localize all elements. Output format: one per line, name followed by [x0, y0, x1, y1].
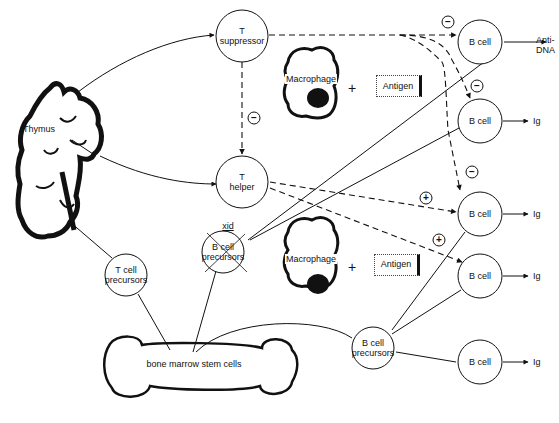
b-cell-5-output: Ig	[533, 357, 541, 367]
anti-dna-line2: DNA	[536, 45, 555, 55]
b-cell-3-label: B cell	[469, 209, 491, 219]
minus-sign-b-cell-2: −	[471, 80, 484, 93]
thymus-label: Thymus	[23, 124, 55, 134]
b-cell-4-output: Ig	[533, 271, 541, 281]
minus-sign-suppressor-helper: −	[248, 112, 261, 125]
b-cell-2-output: Ig	[533, 116, 541, 126]
dashed-connections	[242, 35, 470, 262]
t-cell-precursors-line2: precursors	[105, 275, 148, 285]
t-cell-precursors-line1: T cell	[105, 265, 148, 275]
macrophage-2-label: Macrophage	[285, 254, 337, 264]
b-cell-1-label: B cell	[469, 37, 491, 47]
b-cell-5-label: B cell	[469, 357, 491, 367]
b-cell-4-label: B cell	[469, 271, 491, 281]
xid-tag: xid	[222, 221, 234, 231]
macrophage-1-label: Macrophage	[285, 74, 337, 84]
xid-b-cell-precursors-node: B cell precursors	[202, 242, 245, 262]
antigen-1-label: Antigen	[383, 81, 414, 91]
b-cell-1-output: Anti- DNA	[536, 35, 555, 55]
t-suppressor-line1: T	[220, 26, 265, 36]
b-cell-precursors-node: B cell precursors	[352, 338, 395, 358]
b-cell-2-label: B cell	[469, 116, 491, 126]
t-helper-line1: T	[229, 172, 254, 182]
b-cell-precursors-line2: precursors	[352, 348, 395, 358]
plus-1: +	[348, 80, 356, 96]
bone-marrow-label: bone marrow stem cells	[146, 359, 241, 369]
t-suppressor-node: T suppressor	[220, 26, 265, 46]
plus-sign-b-cell-4: +	[433, 234, 446, 247]
t-helper-line2: helper	[229, 182, 254, 192]
plus-sign-b-cell-3: +	[420, 192, 433, 205]
antigen-2-label: Antigen	[381, 259, 412, 269]
b-cell-3-output: Ig	[533, 209, 541, 219]
t-helper-node: T helper	[229, 172, 254, 192]
t-suppressor-line2: suppressor	[220, 36, 265, 46]
t-cell-precursors-node: T cell precursors	[105, 265, 148, 285]
thymus-organ	[18, 84, 102, 237]
b-cell-precursors-line1: B cell	[352, 338, 395, 348]
xid-b-cell-precursors-line1: B cell	[202, 242, 245, 252]
minus-sign-b-cell-3: −	[466, 166, 479, 179]
minus-sign-b-cell-1: −	[442, 16, 455, 29]
plus-2: +	[348, 259, 356, 275]
xid-b-cell-precursors-line2: precursors	[202, 252, 245, 262]
anti-dna-line1: Anti-	[536, 35, 555, 45]
